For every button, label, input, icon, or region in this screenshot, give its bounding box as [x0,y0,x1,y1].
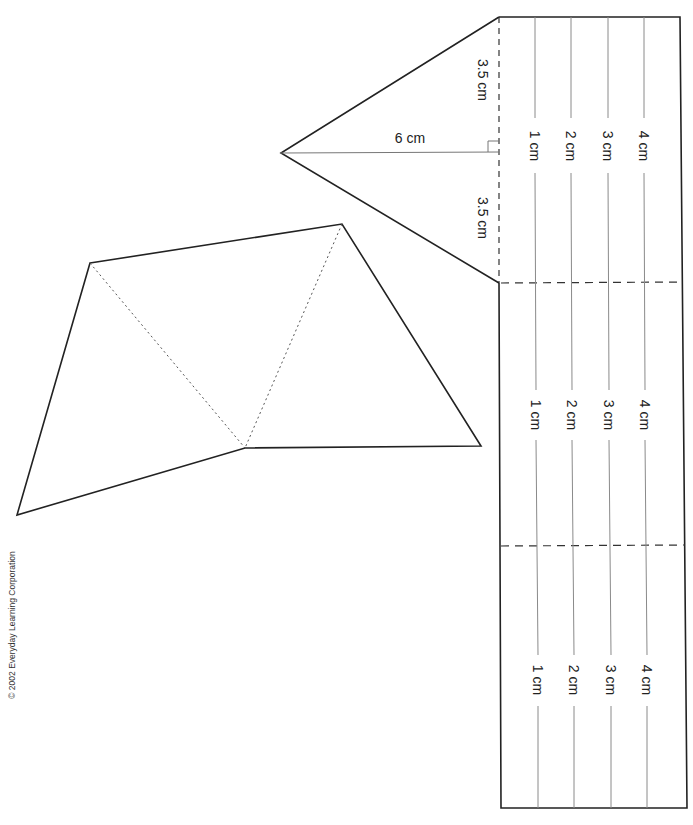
label-3cm: 3 cm [600,131,616,161]
label-1cm: 1 cm [528,400,544,430]
fold-line-2 [501,545,685,546]
right-angle-mark [488,141,499,152]
guide-lines [535,17,647,808]
height-line [281,152,499,153]
half-base-top-label: 3.5 cm [475,59,491,101]
fold-line-diag-2 [245,224,342,448]
label-4cm: 4 cm [637,400,653,430]
label-4cm: 4 cm [639,665,655,695]
label-3cm: 3 cm [601,400,617,430]
section-3-labels: 1 cm 2 cm 3 cm 4 cm [530,665,655,695]
label-3cm: 3 cm [603,665,619,695]
fold-line-1 [501,282,682,283]
label-4cm: 4 cm [636,131,652,161]
label-1cm: 1 cm [530,665,546,695]
label-2cm: 2 cm [563,131,579,161]
triangle-cap: 6 cm 3.5 cm 3.5 cm [281,17,499,283]
net-diagram: 6 cm 3.5 cm 3.5 cm 1 cm 2 cm 3 cm 4 cm 1… [0,0,693,825]
triangle-net [17,224,481,515]
label-1cm: 1 cm [527,131,543,161]
height-label: 6 cm [395,130,425,146]
copyright-text: © 2002 Everyday Learning Corporation [7,551,17,699]
triangle-outline [281,17,499,283]
half-base-bottom-label: 3.5 cm [475,197,491,239]
section-1-labels: 1 cm 2 cm 3 cm 4 cm [527,131,652,161]
section-2-labels: 1 cm 2 cm 3 cm 4 cm [528,400,653,430]
label-2cm: 2 cm [564,400,580,430]
fold-line-diag-1 [90,263,245,448]
label-2cm: 2 cm [566,665,582,695]
net-outline [17,224,481,515]
